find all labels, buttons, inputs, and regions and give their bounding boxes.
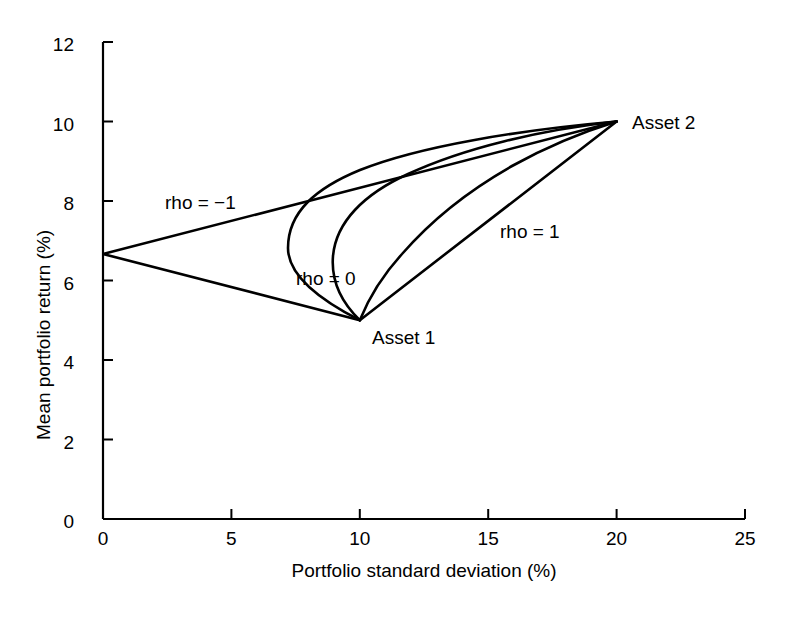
annotation-rho-neg-1: rho = −1	[165, 193, 236, 212]
y-tick-label-6: 6	[63, 274, 74, 293]
x-tick-label-25: 25	[734, 529, 755, 548]
x-tick-label-15: 15	[478, 529, 499, 548]
y-tick-label-8: 8	[63, 194, 74, 213]
annotation-asset-2: Asset 2	[632, 113, 695, 132]
chart-container: 12 10 8 6 4 2 0 0 5 10 15 20 25 Portfoli…	[0, 0, 786, 636]
y-tick-label-0: 0	[63, 512, 74, 531]
x-axis-ticks	[103, 509, 745, 519]
y-axis-title: Mean portfolio return (%)	[34, 230, 53, 440]
x-tick-label-10: 10	[349, 529, 370, 548]
x-tick-label-20: 20	[606, 529, 627, 548]
annotation-asset-1: Asset 1	[372, 328, 435, 347]
x-axis-title: Portfolio standard deviation (%)	[291, 561, 556, 580]
chart-canvas	[0, 0, 786, 636]
x-tick-label-5: 5	[226, 529, 237, 548]
annotation-rho-0: rho = 0	[296, 269, 356, 288]
annotation-rho-1: rho = 1	[500, 222, 560, 241]
y-axis-ticks	[103, 42, 113, 519]
y-tick-label-4: 4	[63, 353, 74, 372]
y-tick-label-10: 10	[53, 115, 74, 134]
y-tick-label-2: 2	[63, 433, 74, 452]
x-tick-label-0: 0	[98, 529, 109, 548]
y-tick-label-12: 12	[53, 35, 74, 54]
curve-rho-1	[360, 122, 617, 321]
